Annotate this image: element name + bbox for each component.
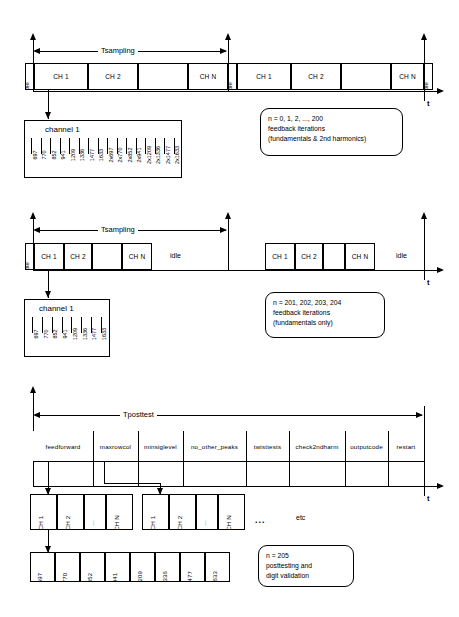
tsampling2-span-arrow-right [220, 227, 227, 233]
note-box-3-line2: posttesting and [266, 561, 346, 571]
frequency-cell: 1633 [205, 552, 230, 582]
stage-divider [289, 431, 290, 486]
cell-ch1-1: CH 1 [34, 63, 88, 90]
stage-label-minsiglevel: minsiglevel [138, 431, 183, 461]
frequency-label: 1477 [89, 149, 95, 161]
stage-band-mid-rail [33, 461, 424, 462]
frequency-cell: 1209 [130, 552, 155, 582]
note-box-3: n = 205 posttesting and digit validation [258, 545, 354, 587]
frequency-cell-label: 770 [62, 573, 68, 582]
channel-cell: CH 1 [30, 494, 57, 530]
note-box-2-line2: feedback iterations [273, 308, 377, 318]
note-box-1: n = 0, 1, 2, ..., 200 feedback iteration… [260, 108, 403, 156]
channel-cell: CH 1 [142, 494, 169, 530]
channel-cell-label: CH N [113, 515, 120, 530]
period-marker-3-arrowhead [421, 33, 427, 40]
frequency-label: 2x1633 [174, 146, 180, 164]
channel-cell: CH 2 [57, 494, 84, 530]
frequency-label: 2x1477 [165, 146, 171, 164]
frequency-cell: 852 [80, 552, 105, 582]
frequency-cell-label: 1209 [137, 571, 143, 582]
cell-chn-2: CH N [391, 63, 424, 90]
channel1-connector-2-arrowhead [45, 291, 51, 298]
frequency-label: 1633 [98, 149, 104, 161]
stage-divider [388, 431, 389, 486]
note-box-2-line1: n = 201, 202, 203, 204 [273, 298, 377, 308]
cell2-chn-1: CH N [122, 243, 152, 270]
time-axis-2 [33, 270, 439, 271]
cell-idle-1c-label: idle [424, 82, 429, 90]
stage-divider [138, 431, 139, 486]
tposttest-span-arrow-right [416, 412, 423, 418]
etc-label: etc [296, 514, 305, 521]
note-box-1-line2: feedback iterations [268, 124, 395, 134]
frequency-cell-label: 1477 [187, 571, 193, 582]
frequency-cell: 1336 [155, 552, 180, 582]
period2-marker-1-arrowhead [30, 212, 36, 219]
cell2-ch1-2: CH 1 [265, 243, 295, 270]
frequency-cell-label: 1336 [162, 571, 168, 582]
cell2-blank-2 [323, 243, 345, 270]
idle-span-label-1: idle [170, 252, 181, 259]
note-box-2: n = 201, 202, 203, 204 feedback iteratio… [265, 292, 385, 338]
tsampling2-span-arrow-left [33, 227, 40, 233]
frequency-cell: 1477 [180, 552, 205, 582]
frequency-label: 2x852 [127, 148, 133, 163]
time-axis-3 [33, 486, 439, 487]
stage-label-outputcode: outputcode [345, 431, 388, 461]
time-axis-2-label: t [427, 278, 430, 287]
frequency-label: 2x770 [117, 148, 123, 163]
channel-cell-label: ... [200, 520, 207, 525]
cell-ch2-1: CH 2 [88, 63, 138, 90]
frequency-cell: 941 [105, 552, 130, 582]
frequency-label: 941 [62, 329, 68, 338]
cell-idle-1a: idle [25, 63, 34, 90]
frequency-label: 1336 [82, 328, 88, 340]
frequency-cell-label: 852 [87, 573, 93, 582]
time-tick-1 [424, 91, 425, 101]
channel-cell-label: CH N [225, 515, 232, 530]
frequency-label: 2x941 [136, 148, 142, 163]
note-box-3-line1: n = 205 [266, 551, 346, 561]
frequency-label: 770 [43, 329, 49, 338]
cell2-idle-1a: idle [25, 243, 34, 270]
channel-cell-label: CH 2 [64, 516, 71, 530]
channel-cell: ... [196, 494, 218, 530]
cell-blank-1 [138, 63, 188, 90]
channel-cell: CH 2 [169, 494, 196, 530]
frequency-label: 1209 [72, 328, 78, 340]
timing-diagram: Tsampling t idle CH 1 CH 2 CH N idle CH … [0, 0, 459, 617]
frequency-label: 697 [32, 150, 38, 159]
time-axis-1-arrowhead [437, 88, 444, 94]
period-marker-1-arrowhead [30, 33, 36, 40]
frequency-label: 1633 [101, 328, 107, 340]
period2-marker-2-arrowhead [225, 212, 231, 219]
stage-label-maxrowcol: maxrowcol [93, 431, 138, 461]
frequency-cell-label: 941 [112, 573, 118, 582]
stage-divider [183, 431, 184, 486]
stage-label-no_other_peaks: no_other_peaks [183, 431, 246, 461]
cell-chn-1: CH N [188, 63, 228, 90]
time-tick-3 [424, 486, 425, 496]
frequency-label: 1477 [91, 328, 97, 340]
channel-cell-label: ... [88, 520, 95, 525]
time-axis-2-arrowhead [437, 267, 444, 273]
stage-label-twisttests: twisttests [246, 431, 289, 461]
tposttest-span-arrow-left [33, 412, 40, 418]
cell2-ch2-2: CH 2 [295, 243, 323, 270]
cell2-ch2-1: CH 2 [64, 243, 92, 270]
frequency-label: 2x1209 [146, 146, 152, 164]
frequency-label: 770 [41, 150, 47, 159]
frequency-label: 941 [60, 150, 66, 159]
channel-detail-box-2: channel 1 [24, 299, 110, 357]
cell-ch2-2: CH 2 [291, 63, 341, 90]
cell-idle-1a-label: idle [25, 82, 30, 90]
channel1-connector-1-arrowhead [45, 112, 51, 119]
time-tick-2 [424, 270, 425, 280]
note-box-3-line3: digit validation [266, 571, 346, 581]
note-box-2-line3: (fundamentals only) [273, 318, 377, 328]
channel-cell-label: CH 2 [176, 516, 183, 530]
posttest-marker-left-arrowhead [30, 386, 36, 393]
time-axis-3-label: t [427, 494, 430, 503]
channel-detail-box-1-title: channel 1 [45, 125, 80, 134]
